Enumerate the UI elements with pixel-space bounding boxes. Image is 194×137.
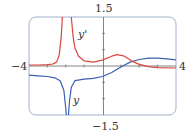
x-left-tick-label: −4 xyxy=(11,61,27,72)
chart-canvas xyxy=(0,0,194,137)
series-label-y-prime: y' xyxy=(78,29,87,40)
series-label-y: y xyxy=(73,95,79,106)
y-top-tick-label: 1.5 xyxy=(95,3,113,14)
y-bottom-tick-label: −1.5 xyxy=(92,121,119,132)
x-right-tick-label: 4 xyxy=(179,61,186,72)
